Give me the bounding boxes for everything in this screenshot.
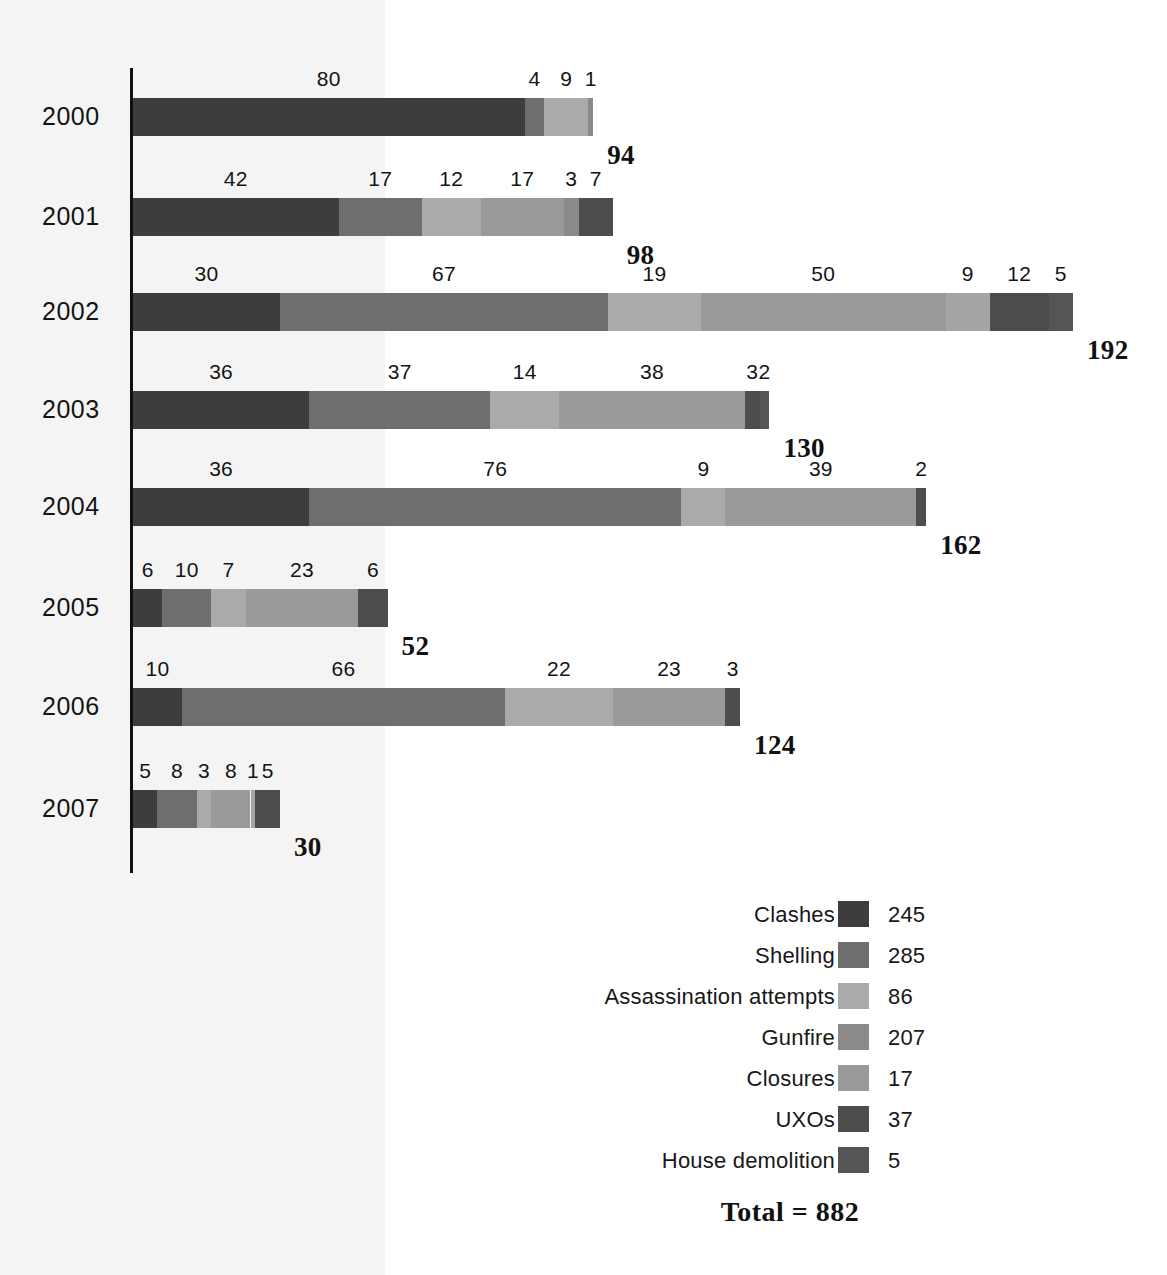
legend-color-swatch — [838, 1106, 869, 1132]
legend-item[interactable]: Gunfire207 — [600, 1019, 1000, 1060]
row-total-label: 30 — [294, 830, 322, 864]
bar-row: 20008049194 — [0, 60, 1167, 154]
segment-value-label: 36 — [191, 458, 251, 480]
legend-item[interactable]: Clashes245 — [600, 896, 1000, 937]
legend-color-swatch — [838, 1024, 869, 1050]
bar-segment[interactable] — [133, 488, 309, 526]
bar-row: 20033637143832130 — [0, 353, 1167, 447]
bar-segment[interactable] — [544, 98, 588, 136]
bar-segment[interactable] — [525, 98, 545, 136]
segment-value-label: 5 — [238, 760, 298, 782]
bar-segment[interactable] — [760, 391, 770, 429]
segment-value-label: 23 — [639, 658, 699, 680]
segment-value-label: 10 — [127, 658, 187, 680]
bar-segment[interactable] — [133, 98, 525, 136]
bar-row: 2001421712173798 — [0, 160, 1167, 254]
legend-item-count: 17 — [888, 1066, 913, 1092]
bar-segment[interactable] — [701, 293, 946, 331]
legend-color-swatch — [838, 1065, 869, 1091]
bar-row: 200758381530 — [0, 752, 1167, 846]
bar-segment[interactable] — [255, 790, 279, 828]
bar-segment[interactable] — [916, 488, 926, 526]
legend-item-label: Shelling — [755, 943, 835, 969]
bar-segment[interactable] — [559, 391, 745, 429]
bar-segment[interactable] — [280, 293, 608, 331]
year-label-2002: 2002 — [0, 297, 110, 325]
bar-segment[interactable] — [339, 198, 422, 236]
legend-item[interactable]: UXOs37 — [600, 1101, 1000, 1142]
segment-value-label: 9 — [673, 458, 733, 480]
bar-segment[interactable] — [182, 688, 505, 726]
bar-segment[interactable] — [309, 391, 490, 429]
bar-segment[interactable] — [745, 391, 760, 429]
bar-segment[interactable] — [162, 589, 211, 627]
legend-item[interactable]: Assassination attempts86 — [600, 978, 1000, 1019]
legend-item[interactable]: Closures17 — [600, 1060, 1000, 1101]
bar-segment[interactable] — [946, 293, 990, 331]
segment-value-label: 30 — [176, 263, 236, 285]
segment-value-label: 36 — [191, 361, 251, 383]
year-label-2000: 2000 — [0, 102, 110, 130]
segment-value-label: 12 — [421, 168, 481, 190]
legend-color-swatch — [838, 1147, 869, 1173]
segment-value-label: 39 — [791, 458, 851, 480]
bar-segment[interactable] — [725, 688, 740, 726]
segment-value-label: 7 — [198, 559, 258, 581]
bar-segment[interactable] — [725, 488, 916, 526]
segment-value-label: 38 — [622, 361, 682, 383]
bar-segment[interactable] — [133, 391, 309, 429]
bar-segment[interactable] — [490, 391, 559, 429]
segment-value-label: 42 — [206, 168, 266, 190]
bar-segment[interactable] — [613, 688, 726, 726]
bar-segment[interactable] — [588, 98, 593, 136]
year-label-2005: 2005 — [0, 593, 110, 621]
bar-segment[interactable] — [246, 589, 359, 627]
segment-value-label: 5 — [1031, 263, 1091, 285]
bar-segment[interactable] — [197, 790, 212, 828]
background-band-lower — [0, 835, 385, 1275]
bar-segment[interactable] — [505, 688, 613, 726]
segment-value-label: 3 — [703, 658, 763, 680]
bar-row: 2005610723652 — [0, 551, 1167, 645]
segment-value-label: 17 — [350, 168, 410, 190]
bar-row: 2002306719509125192 — [0, 255, 1167, 349]
bar-segment[interactable] — [133, 688, 182, 726]
segment-value-label: 76 — [465, 458, 525, 480]
bar-segment[interactable] — [422, 198, 481, 236]
segment-value-label: 23 — [272, 559, 332, 581]
bar-segment[interactable] — [358, 589, 387, 627]
legend-item-label: Assassination attempts — [604, 984, 835, 1010]
bar-segment[interactable] — [990, 293, 1049, 331]
bar-segment[interactable] — [133, 198, 339, 236]
legend-item-count: 207 — [888, 1025, 925, 1051]
bar-segment[interactable] — [608, 293, 701, 331]
legend-item-count: 5 — [888, 1148, 900, 1174]
bar-segment[interactable] — [211, 589, 245, 627]
bar-segment[interactable] — [564, 198, 579, 236]
bar-segment[interactable] — [157, 790, 196, 828]
legend-color-swatch — [838, 942, 869, 968]
segment-value-label: 6 — [343, 559, 403, 581]
segment-value-label: 1 — [561, 68, 621, 90]
segment-value-label: 14 — [495, 361, 555, 383]
segment-value-label: 67 — [414, 263, 474, 285]
bar-row: 2006106622233124 — [0, 650, 1167, 744]
bar-segment[interactable] — [133, 293, 280, 331]
legend-item[interactable]: House demolition5 — [600, 1142, 1000, 1183]
legend-item-label: Clashes — [754, 902, 835, 928]
year-label-2007: 2007 — [0, 794, 110, 822]
segment-value-label: 2 — [735, 361, 795, 383]
legend-item-count: 37 — [888, 1107, 913, 1133]
bar-segment[interactable] — [133, 589, 162, 627]
bar-segment[interactable] — [681, 488, 725, 526]
bar-segment[interactable] — [481, 198, 564, 236]
bar-segment[interactable] — [133, 790, 157, 828]
bar-segment[interactable] — [579, 198, 613, 236]
legend-item-count: 86 — [888, 984, 913, 1010]
bar-segment[interactable] — [211, 790, 250, 828]
bar-segment[interactable] — [309, 488, 681, 526]
legend-item-label: Closures — [747, 1066, 835, 1092]
legend-item[interactable]: Shelling285 — [600, 937, 1000, 978]
bar-segment[interactable] — [1049, 293, 1073, 331]
segment-value-label: 19 — [624, 263, 684, 285]
